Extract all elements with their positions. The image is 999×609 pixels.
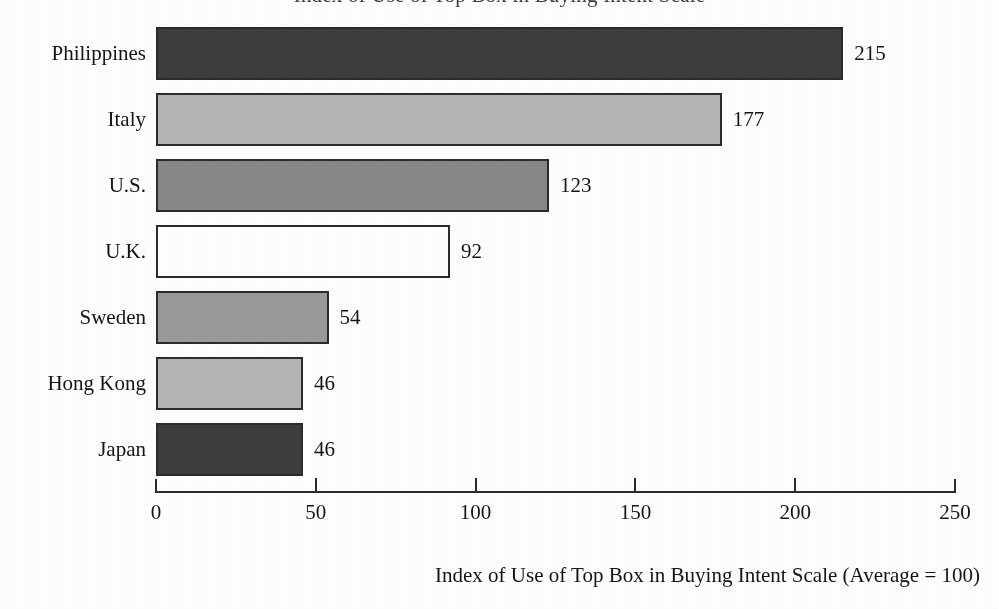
x-axis-tick-label: 100 <box>460 500 492 525</box>
bar-value-label: 46 <box>303 423 335 476</box>
plot-area: 21517712392544646 <box>156 27 955 491</box>
bar-sweden[interactable] <box>156 291 329 344</box>
x-axis-tick-label: 0 <box>151 500 162 525</box>
x-axis-tick <box>155 479 157 493</box>
category-label-sweden: Sweden <box>0 291 146 357</box>
category-label-us: U.S. <box>0 159 146 225</box>
category-label-italy: Italy <box>0 93 146 159</box>
x-axis-tick <box>315 478 317 491</box>
bar-hong-kong[interactable] <box>156 357 303 410</box>
x-axis-line <box>156 491 955 493</box>
x-axis-tick <box>634 478 636 491</box>
bar-value-label: 123 <box>549 159 592 212</box>
x-axis-tick-label: 200 <box>779 500 811 525</box>
x-axis-title: Index of Use of Top Box in Buying Intent… <box>0 563 980 588</box>
bar-u-s[interactable] <box>156 159 549 212</box>
bar-row: 123 <box>156 159 955 225</box>
x-axis-tick-label: 150 <box>620 500 652 525</box>
x-axis-tick <box>475 478 477 491</box>
bar-value-label: 46 <box>303 357 335 410</box>
bar-row: 215 <box>156 27 955 93</box>
bar-row: 177 <box>156 93 955 159</box>
bar-chart-figure: Index of Use of Top Box in Buying Intent… <box>0 0 999 609</box>
bar-row: 92 <box>156 225 955 291</box>
category-label-japan: Japan <box>0 423 146 489</box>
chart-title: Index of Use of Top Box in Buying Intent… <box>0 0 999 8</box>
bar-u-k[interactable] <box>156 225 450 278</box>
bar-value-label: 54 <box>329 291 361 344</box>
bar-row: 46 <box>156 423 955 489</box>
category-label-philippines: Philippines <box>0 27 146 93</box>
category-label-hong-kong: Hong Kong <box>0 357 146 423</box>
bar-japan[interactable] <box>156 423 303 476</box>
x-axis-tick <box>954 479 956 493</box>
bar-value-label: 177 <box>722 93 765 146</box>
x-axis-tick-label: 50 <box>305 500 326 525</box>
bar-philippines[interactable] <box>156 27 843 80</box>
x-axis-tick <box>794 478 796 491</box>
bar-italy[interactable] <box>156 93 722 146</box>
category-label-uk: U.K. <box>0 225 146 291</box>
category-axis-labels: Philippines Italy U.S. U.K. Sweden Hong … <box>0 27 146 489</box>
bar-value-label: 215 <box>843 27 886 80</box>
bar-row: 54 <box>156 291 955 357</box>
bar-row: 46 <box>156 357 955 423</box>
bar-value-label: 92 <box>450 225 482 278</box>
x-axis-tick-label: 250 <box>939 500 971 525</box>
